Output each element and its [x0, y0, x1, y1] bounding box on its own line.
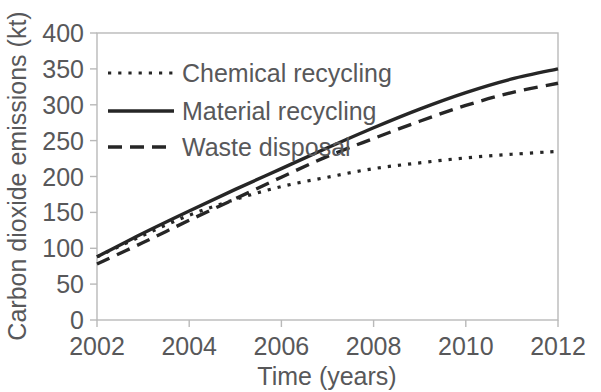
- legend-label-chemical-recycling: Chemical recycling: [182, 59, 392, 87]
- y-axis-ticks: [90, 33, 97, 320]
- y-tick-label-50: 50: [56, 270, 84, 298]
- y-tick-label-250: 250: [42, 127, 84, 155]
- y-tick-label-300: 300: [42, 91, 84, 119]
- x-axis-title: Time (years): [257, 362, 396, 390]
- y-axis-title: Carbon dioxide emissions (kt): [3, 11, 31, 340]
- y-tick-label-200: 200: [42, 163, 84, 191]
- legend-label-waste-disposal: Waste disposal: [182, 133, 351, 161]
- x-tick-label-2012: 2012: [530, 332, 586, 360]
- legend-label-material-recycling: Material recycling: [182, 97, 377, 125]
- x-axis-ticks: [97, 320, 558, 327]
- x-tick-label-2006: 2006: [254, 332, 310, 360]
- line-chart: 400 350 300 250 200 150 100 50 0 2002 20…: [0, 0, 601, 392]
- y-tick-label-0: 0: [70, 306, 84, 334]
- chart-figure: 400 350 300 250 200 150 100 50 0 2002 20…: [0, 0, 601, 392]
- y-tick-label-350: 350: [42, 55, 84, 83]
- x-tick-label-2004: 2004: [161, 332, 217, 360]
- x-tick-label-2010: 2010: [438, 332, 494, 360]
- x-tick-label-2002: 2002: [69, 332, 125, 360]
- y-tick-label-400: 400: [42, 19, 84, 47]
- y-tick-label-100: 100: [42, 234, 84, 262]
- y-tick-label-150: 150: [42, 198, 84, 226]
- x-tick-label-2008: 2008: [346, 332, 402, 360]
